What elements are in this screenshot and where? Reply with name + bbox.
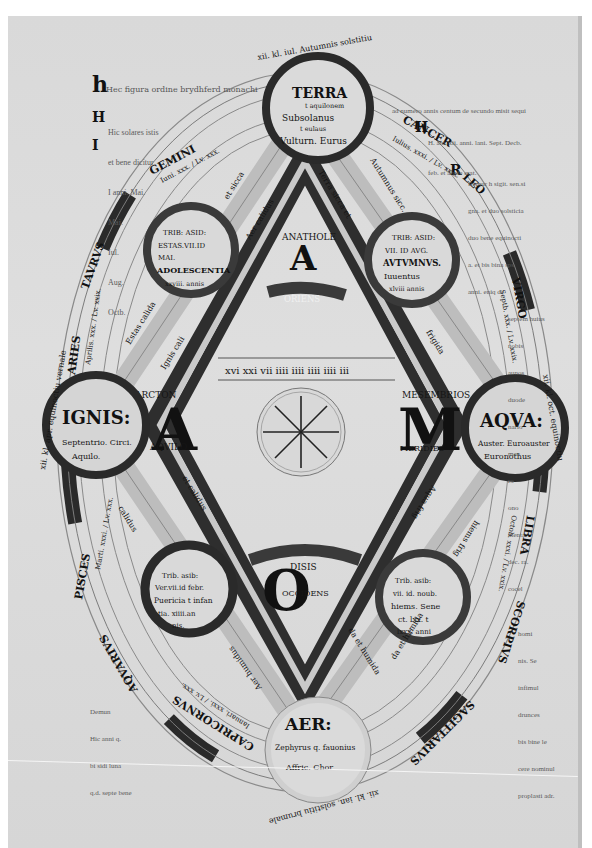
svg-text:Trib. asib:: Trib. asib: [162, 572, 198, 580]
svg-text:Iuuentus: Iuuentus [384, 272, 420, 281]
svg-text:Puericia t infan: Puericia t infan [154, 596, 213, 605]
svg-text:TERRA: TERRA [292, 85, 348, 101]
svg-text:AVTVMNVS.: AVTVMNVS. [382, 258, 441, 268]
svg-text:Subsolanus: Subsolanus [282, 113, 335, 123]
svg-text:Vulturn. Eurus: Vulturn. Eurus [279, 136, 347, 146]
svg-text:MESEMBRIOS: MESEMBRIOS [402, 390, 470, 400]
svg-text:H: H [92, 109, 105, 125]
margin-notes-left-top: Hic solares istis et bene dicitur I anni… [108, 108, 159, 328]
svg-text:ESTAS.VII.ID: ESTAS.VII.ID [158, 242, 206, 250]
svg-text:frigida: frigida [424, 328, 446, 356]
svg-text:vii. id. noub.: vii. id. noub. [392, 590, 437, 598]
element-aer: AER: Zephyrus q. fauonius Affric. Chor. [265, 697, 371, 803]
margin-notes-left-bottom: Demun Hic anni q. bi sidi luna q.d. sept… [90, 690, 132, 807]
svg-text:Zephyrus q. fauonius: Zephyrus q. fauonius [275, 743, 355, 752]
element-terra: TERRA t aquilonem Subsolanus t eulaus Vu… [266, 56, 370, 160]
svg-text:VII. ID AVG.: VII. ID AVG. [384, 247, 428, 255]
svg-text:Trib. asib:: Trib. asib: [395, 577, 431, 585]
svg-text:I: I [92, 137, 99, 153]
adam-letter-top: A [289, 238, 317, 278]
svg-text:t aquilonem: t aquilonem [305, 102, 344, 110]
svg-text:OCCIDENS: OCCIDENS [282, 589, 329, 598]
adam-letter-left: A [151, 396, 198, 464]
svg-text:Aprilis. xxx. / Lv. xxix.: Aprilis. xxx. / Lv. xxix. [84, 288, 103, 366]
svg-text:ORIENS: ORIENS [284, 294, 320, 304]
season-winter: Trib. asib: vii. id. noub. hiems. Sene c… [379, 553, 467, 641]
svg-text:AER:: AER: [284, 714, 332, 734]
svg-text:ADOLESCENTIA: ADOLESCENTIA [156, 265, 231, 275]
margin-notes-right-column: Remur h sigit. sen.si gna. et duo solsti… [468, 162, 545, 603]
zodiac-aries: ARIES [65, 335, 83, 377]
svg-text:hiems. Sene: hiems. Sene [391, 602, 441, 611]
svg-text:tia. xiiii.an: tia. xiiii.an [158, 610, 196, 618]
svg-text:ANATHOLE: ANATHOLE [281, 232, 336, 242]
svg-text:xlviii annis: xlviii annis [389, 285, 424, 293]
season-spring: Trib. asib: Ver.vii.id febr. Puericia t … [145, 545, 233, 633]
svg-text:DISIS: DISIS [290, 562, 317, 572]
svg-text:xxviii. annis: xxviii. annis [165, 280, 204, 288]
zodiac-pisces: PISCES [72, 552, 93, 600]
svg-text:t eulaus: t eulaus [300, 125, 326, 133]
svg-text:Marti. xxxi. / Lv. xxx.: Marti. xxxi. / Lv. xxx. [94, 496, 115, 570]
numeric-row: xvi xxi vii iiii iiii iiii iiii iii [225, 365, 349, 376]
svg-text:Septentrio. Circi.: Septentrio. Circi. [62, 438, 132, 447]
margin-notes-right-bottom: homi nis. Se infimul drunces bis bine le… [518, 612, 555, 810]
svg-text:Aquilo.: Aquilo. [71, 452, 100, 461]
svg-text:MERIDIES: MERIDIES [400, 444, 444, 453]
svg-text:Hec figura ordine brydhferd mo: Hec figura ordine brydhferd monachi [106, 85, 258, 94]
svg-text:Ver.vii.id febr.: Ver.vii.id febr. [154, 584, 204, 592]
svg-text:calidus: calidus [116, 504, 139, 533]
zodiac-aquarius: AQVARIVS [97, 632, 141, 696]
zodiac-taurus: TAVRVS [79, 240, 108, 291]
svg-text:MAI.: MAI. [158, 254, 175, 262]
svg-text:IGNIS:: IGNIS: [62, 407, 130, 428]
svg-text:AQVILO: AQVILO [149, 442, 187, 452]
season-autumn: TRIB: ASID: VII. ID AVG. AVTVMNVS. Iuuen… [368, 216, 456, 304]
svg-text:TRIB: ASID:: TRIB: ASID: [163, 229, 206, 237]
svg-text:TRIB: ASID:: TRIB: ASID: [392, 234, 435, 242]
svg-text:nis.: nis. [172, 622, 185, 630]
adam-letter-right: M [398, 396, 462, 464]
wind-rose [257, 388, 345, 476]
season-summer: TRIB: ASID: ESTAS.VII.ID MAI. ADOLESCENT… [147, 206, 235, 294]
